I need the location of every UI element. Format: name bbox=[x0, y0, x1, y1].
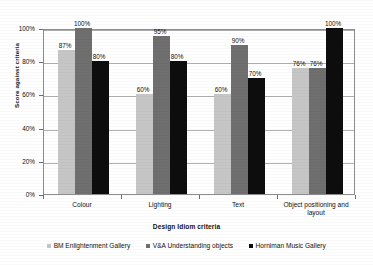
bar bbox=[58, 50, 75, 194]
y-tick-label: 60% bbox=[1, 91, 35, 98]
legend-label: BM Enlightenment Gallery bbox=[54, 242, 131, 249]
bar-value-label: 70% bbox=[242, 70, 269, 77]
x-tick-mark bbox=[199, 195, 200, 199]
bar-value-label: 87% bbox=[52, 42, 79, 49]
y-tick-label: 40% bbox=[1, 125, 35, 132]
legend-item[interactable]: BM Enlightenment Gallery bbox=[47, 242, 130, 249]
bar bbox=[170, 61, 187, 194]
x-tick-mark bbox=[121, 195, 122, 199]
x-category-label: Lighting bbox=[121, 201, 199, 209]
y-tick-mark bbox=[39, 95, 43, 96]
y-tick-label: 20% bbox=[1, 158, 35, 165]
bar-value-label: 100% bbox=[69, 20, 96, 27]
legend-label: V&A Understanding objects bbox=[153, 242, 233, 249]
bar-value-label: 95% bbox=[147, 28, 174, 35]
bar bbox=[326, 28, 343, 194]
x-tick-mark bbox=[43, 195, 44, 199]
bar-value-label: 76% bbox=[303, 60, 330, 67]
bar-value-label: 100% bbox=[320, 20, 347, 27]
legend-swatch-icon bbox=[249, 244, 253, 248]
bar-value-label: 80% bbox=[86, 53, 113, 60]
y-tick-mark bbox=[39, 29, 43, 30]
y-tick-mark bbox=[39, 129, 43, 130]
y-tick-mark bbox=[39, 62, 43, 63]
x-axis-title: Design Idiom criteria bbox=[0, 223, 373, 230]
legend-swatch-icon bbox=[146, 244, 150, 248]
bar bbox=[92, 61, 109, 194]
bar-value-label: 90% bbox=[225, 37, 252, 44]
bar bbox=[309, 68, 326, 194]
y-axis-title: Score against criteria bbox=[13, 16, 20, 136]
bar-chart: Score against criteria 0%20%40%60%80%100… bbox=[0, 0, 373, 265]
x-tick-mark bbox=[355, 195, 356, 199]
bar bbox=[136, 94, 153, 194]
bar bbox=[231, 45, 248, 194]
x-category-label: Colour bbox=[43, 201, 121, 209]
bar bbox=[214, 94, 231, 194]
bar-value-label: 60% bbox=[130, 86, 157, 93]
bar bbox=[292, 68, 309, 194]
bar-value-label: 60% bbox=[208, 86, 235, 93]
x-tick-mark bbox=[277, 195, 278, 199]
legend-item[interactable]: Horniman Music Gallery bbox=[249, 242, 326, 249]
y-tick-label: 100% bbox=[1, 25, 35, 32]
y-tick-mark bbox=[39, 162, 43, 163]
legend-swatch-icon bbox=[47, 244, 51, 248]
bar bbox=[248, 78, 265, 194]
bar-value-label: 80% bbox=[164, 53, 191, 60]
x-category-label: Text bbox=[199, 201, 277, 209]
legend-item[interactable]: V&A Understanding objects bbox=[146, 242, 233, 249]
y-tick-label: 80% bbox=[1, 58, 35, 65]
chart-legend: BM Enlightenment GalleryV&A Understandin… bbox=[0, 242, 373, 249]
legend-label: Horniman Music Gallery bbox=[256, 242, 326, 249]
y-tick-label: 0% bbox=[1, 191, 35, 198]
x-category-label: Object positioning and layout bbox=[277, 201, 355, 218]
